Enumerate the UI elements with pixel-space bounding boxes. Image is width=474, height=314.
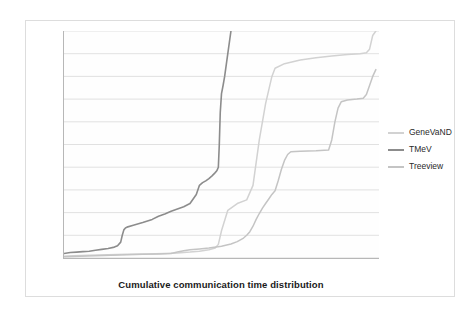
- legend-item-treeview[interactable]: Treeview: [388, 158, 454, 175]
- x-tick-mark: [127, 258, 128, 259]
- x-tick-label: 80: [312, 258, 322, 259]
- chart-figure: Communication time (ms) Cumulative commu…: [25, 20, 455, 297]
- y-tick-mark: [63, 31, 64, 32]
- x-tick-mark: [254, 258, 255, 259]
- legend-item-genevand[interactable]: GeneVaND: [388, 124, 454, 141]
- x-tick-label: 40: [185, 258, 195, 259]
- x-tick-mark: [96, 258, 97, 259]
- x-axis-title: Cumulative communication time distributi…: [63, 279, 379, 290]
- gridlines: [64, 31, 379, 258]
- plot-area: 0501001502002503003504004505000102030405…: [63, 31, 379, 259]
- y-tick-mark: [63, 190, 64, 191]
- series-line-treeview: [64, 70, 376, 257]
- x-tick-mark: [285, 258, 286, 259]
- legend-swatch-icon: [388, 132, 404, 134]
- legend-label: GeneVaND: [409, 128, 452, 137]
- y-tick-mark: [63, 236, 64, 237]
- y-tick-mark: [63, 76, 64, 77]
- y-tick-mark: [63, 167, 64, 168]
- x-tick-mark: [159, 258, 160, 259]
- x-tick-mark: [222, 258, 223, 259]
- x-tick-label: 60: [249, 258, 259, 259]
- series-line-tmev: [64, 31, 231, 253]
- x-tick-label: 50: [217, 258, 227, 259]
- legend-swatch-icon: [388, 166, 404, 168]
- y-tick-mark: [63, 122, 64, 123]
- x-tick-mark: [190, 258, 191, 259]
- x-tick-mark: [317, 258, 318, 259]
- x-tick-mark: [348, 258, 349, 259]
- legend-label: TMeV: [409, 145, 432, 154]
- y-tick-mark: [63, 259, 64, 260]
- legend-label: Treeview: [409, 162, 443, 171]
- x-tick-label: 30: [154, 258, 164, 259]
- plot-wrapper: Communication time (ms) Cumulative commu…: [26, 21, 456, 298]
- y-tick-mark: [63, 213, 64, 214]
- y-tick-label: 0: [63, 255, 64, 260]
- y-tick-mark: [63, 53, 64, 54]
- x-tick-label: 0: [63, 258, 67, 259]
- x-tick-label: 70: [280, 258, 290, 259]
- y-tick-mark: [63, 99, 64, 100]
- legend-swatch-icon: [388, 149, 404, 151]
- x-tick-label: 90: [343, 258, 353, 259]
- chart-legend: GeneVaNDTMeVTreeview: [388, 124, 454, 175]
- y-tick-label: 500: [63, 31, 64, 36]
- y-tick-mark: [63, 145, 64, 146]
- x-tick-label: 10: [91, 258, 101, 259]
- legend-item-tmev[interactable]: TMeV: [388, 141, 454, 158]
- x-tick-label: 20: [122, 258, 132, 259]
- series-lines: [64, 31, 376, 257]
- chart-canvas: [64, 31, 379, 258]
- x-tick-mark: [64, 258, 65, 259]
